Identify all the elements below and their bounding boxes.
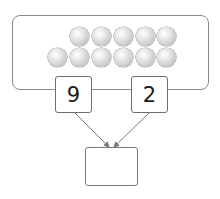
part-value-right: 2 xyxy=(143,83,156,107)
arrow-left-icon xyxy=(74,112,109,147)
part-value-left: 9 xyxy=(67,83,80,107)
part-box-right: 2 xyxy=(131,76,168,113)
part-box-left: 9 xyxy=(55,76,92,113)
arrow-right-icon xyxy=(114,112,150,147)
whole-answer-box[interactable] xyxy=(85,147,138,186)
